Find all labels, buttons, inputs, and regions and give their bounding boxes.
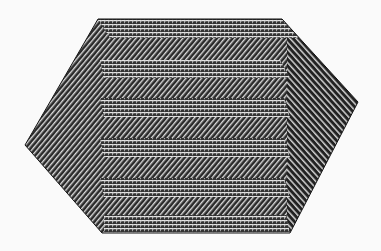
hexagon <box>25 19 358 233</box>
illusion-figure <box>0 0 381 251</box>
front-face <box>102 19 287 233</box>
